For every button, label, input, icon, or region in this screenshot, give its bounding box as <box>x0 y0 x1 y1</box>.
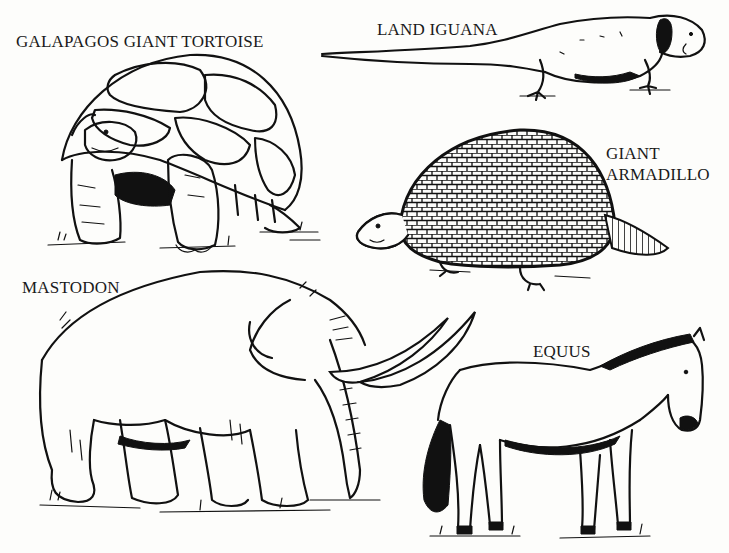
label-giant-armadillo-line2: ARMADILLO <box>606 164 710 185</box>
label-equus: EQUUS <box>533 341 591 362</box>
illustration-plate: GALAPAGOS GIANT TORTOISE LAND IGUANA GIA… <box>0 0 729 553</box>
label-giant-armadillo: GIANT ARMADILLO <box>606 143 710 185</box>
label-galapagos-giant-tortoise: GALAPAGOS GIANT TORTOISE <box>16 31 263 52</box>
label-giant-armadillo-line1: GIANT <box>606 143 710 164</box>
mastodon-drawing <box>40 271 475 512</box>
tortoise-drawing <box>48 55 320 252</box>
label-mastodon: MASTODON <box>22 277 120 298</box>
label-land-iguana: LAND IGUANA <box>377 19 498 40</box>
